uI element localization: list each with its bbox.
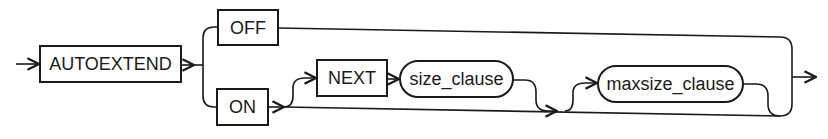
off-keyword: OFF [218,10,278,45]
branch-off-path [203,27,218,65]
on-keyword: ON [217,89,268,125]
maxsize-clause-label: maxsize_clause [606,74,734,95]
maxsize-clause-rejoin-path [743,84,780,116]
next-branch-path [284,78,316,107]
maxsize-branch-path [565,83,597,111]
autoextend-keyword: AUTOEXTEND [40,46,181,82]
size-clause-label: size_clause [409,69,503,90]
off-label: OFF [230,18,266,38]
syntax-diagram: AUTOEXTEND OFF ON NEXT size_clause ma [0,0,828,139]
next-keyword: NEXT [317,60,387,96]
autoextend-label: AUTOEXTEND [49,54,172,74]
maxsize-clause-node: maxsize_clause [598,66,743,102]
on-label: ON [229,97,256,117]
branch-on-path [203,65,217,107]
size-clause-rejoin-path [513,80,557,111]
next-label: NEXT [328,68,376,88]
size-clause-node: size_clause [400,61,513,97]
